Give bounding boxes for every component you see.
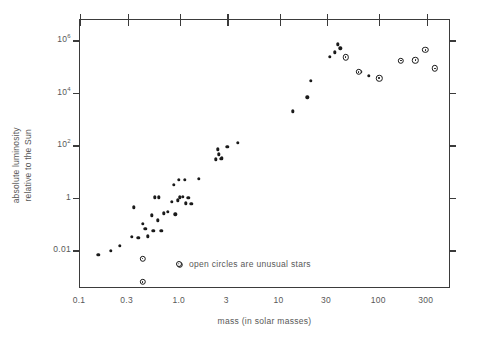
mass-luminosity-chart: mass (in solar masses) absolute luminosi… <box>0 0 478 341</box>
data-point-filled <box>143 227 146 230</box>
x-axis-tick-top <box>427 20 428 26</box>
data-point-open <box>422 47 428 53</box>
x-axis-tick-label: 3 <box>224 295 229 305</box>
y-axis-tick-right <box>449 250 456 251</box>
data-point-filled <box>236 141 239 144</box>
x-axis-tick-label: 0.1 <box>73 295 86 305</box>
x-axis-tick-top <box>327 20 328 26</box>
y-axis-tick-right <box>449 145 456 146</box>
x-axis-tick-top <box>280 20 281 26</box>
x-axis-tick-label: 300 <box>418 295 433 305</box>
data-point-filled <box>109 249 112 252</box>
data-point-filled <box>166 210 169 213</box>
data-point-filled <box>328 55 331 58</box>
data-point-open <box>398 57 404 63</box>
x-axis-title: mass (in solar masses) <box>79 316 450 326</box>
data-point-filled <box>187 196 190 199</box>
y-axis-tick-label: 1 <box>36 192 71 202</box>
y-axis-tick-label: 0.01 <box>36 244 71 254</box>
data-point-filled <box>214 158 217 161</box>
data-point-filled <box>157 196 160 199</box>
data-point-open <box>412 57 418 63</box>
data-point-filled <box>217 153 220 156</box>
y-axis-tick-label: 104 <box>36 87 71 97</box>
data-point-open <box>139 255 145 261</box>
data-point-filled <box>189 202 192 205</box>
data-point-filled <box>152 229 155 232</box>
data-point-filled <box>172 183 175 186</box>
plot-frame <box>79 19 450 288</box>
data-point-filled <box>197 177 200 180</box>
y-axis-tick-right <box>449 93 456 94</box>
data-point-filled <box>226 145 229 148</box>
plot-area <box>80 20 449 287</box>
data-point-filled <box>176 199 179 202</box>
x-axis-tick-label: 0.3 <box>120 295 133 305</box>
y-axis-tick <box>73 250 80 251</box>
data-point-open <box>376 75 382 81</box>
x-axis-tick-top <box>227 20 228 26</box>
data-point-filled <box>184 202 187 205</box>
y-axis-title-line-2: relative to the Sun <box>22 105 34 225</box>
y-axis-tick <box>73 93 80 94</box>
data-point-filled <box>160 229 163 232</box>
data-point-filled <box>153 196 156 199</box>
data-point-filled <box>181 195 184 198</box>
data-point-open <box>342 54 348 60</box>
data-point-filled <box>338 47 341 50</box>
data-point-filled <box>216 147 219 150</box>
x-axis-tick-label: 30 <box>321 295 331 305</box>
data-point-filled <box>150 214 153 217</box>
data-point-filled <box>170 200 173 203</box>
y-axis-tick <box>73 198 80 199</box>
data-point-filled <box>146 235 149 238</box>
data-point-filled <box>183 178 186 181</box>
y-axis-tick-right <box>449 198 456 199</box>
data-point-filled <box>137 236 140 239</box>
x-axis-tick-top <box>180 20 181 26</box>
data-point-open <box>355 69 361 75</box>
data-point-filled <box>174 213 177 216</box>
y-axis-tick <box>73 40 80 41</box>
x-axis-tick-label: 1.0 <box>172 295 185 305</box>
data-point-filled <box>132 206 135 209</box>
data-point-filled <box>130 235 133 238</box>
data-point-filled <box>162 212 165 215</box>
open-circle-icon <box>176 261 182 267</box>
y-axis-title-line-1: absolute luminosity <box>10 105 22 225</box>
data-point-open <box>432 65 438 71</box>
x-axis-tick-label: 100 <box>371 295 386 305</box>
data-point-filled <box>96 253 99 256</box>
y-axis-tick-label: 106 <box>36 34 71 44</box>
data-point-filled <box>177 178 180 181</box>
y-axis-tick-right <box>449 40 456 41</box>
x-axis-tick-label: 10 <box>273 295 283 305</box>
x-axis-tick-top <box>80 20 81 26</box>
x-axis-tick-top <box>128 20 129 26</box>
data-point-filled <box>306 96 309 99</box>
legend-annotation: open circles are unusual stars <box>176 259 311 269</box>
data-point-open <box>139 279 145 285</box>
data-point-filled <box>220 156 223 159</box>
data-point-filled <box>309 79 312 82</box>
data-point-filled <box>156 219 159 222</box>
y-axis-tick-label: 102 <box>36 139 71 149</box>
y-axis-tick <box>73 145 80 146</box>
data-point-filled <box>118 244 121 247</box>
x-axis-tick-top <box>379 20 380 26</box>
data-point-filled <box>291 110 294 113</box>
data-point-filled <box>333 51 336 54</box>
legend-annotation-text: open circles are unusual stars <box>189 259 311 269</box>
y-axis-title: absolute luminosity relative to the Sun <box>10 105 35 225</box>
data-point-filled <box>367 74 370 77</box>
data-point-filled <box>141 222 144 225</box>
